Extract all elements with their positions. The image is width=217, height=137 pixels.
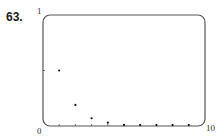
axis-ticks [43, 71, 189, 127]
data-point [107, 122, 109, 124]
plot-frame [43, 15, 205, 126]
x-min-label: 0 [37, 126, 42, 136]
data-point [123, 124, 125, 126]
data-point [74, 104, 76, 106]
scatter-plot: 1 0 10 [0, 0, 217, 137]
data-point [172, 124, 174, 126]
y-max-label: 1 [37, 6, 42, 16]
data-point [188, 124, 190, 126]
data-points [58, 69, 190, 126]
data-point [58, 69, 60, 71]
data-point [139, 124, 141, 126]
x-max-label: 10 [206, 123, 216, 133]
data-point [91, 117, 93, 119]
data-point [155, 124, 157, 126]
